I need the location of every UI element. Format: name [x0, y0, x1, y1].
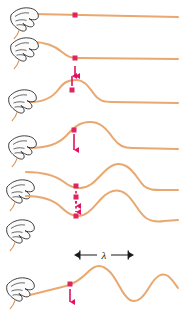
wave-on-rope-figure: λ	[0, 0, 182, 322]
rope-marker-dot	[68, 282, 73, 287]
rope-marker-dot	[72, 128, 77, 133]
wavelength-tick-left	[79, 251, 80, 260]
rope-marker-dot-upper	[74, 195, 79, 200]
figure-canvas: λ	[0, 0, 182, 322]
rope-marker-dot	[70, 88, 75, 93]
rope-marker-dot	[73, 56, 78, 61]
wavelength-tick-right	[128, 251, 129, 260]
rope-marker-dot	[74, 214, 79, 219]
rope-marker-dot	[74, 184, 79, 189]
rope-marker-dot	[73, 13, 78, 18]
wavelength-symbol-label: λ	[101, 249, 107, 261]
